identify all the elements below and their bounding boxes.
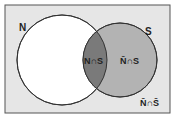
set-s-label: S	[145, 26, 152, 37]
region-notn-and-nots: N̄∩S̄	[140, 98, 159, 108]
region-n-and-s: N∩S	[84, 56, 103, 66]
region-notn-and-s: N̄∩S	[120, 56, 139, 66]
venn-diagram: N S N∩S N̄∩S N̄∩S̄	[0, 0, 175, 123]
set-n-label: N	[19, 22, 26, 33]
